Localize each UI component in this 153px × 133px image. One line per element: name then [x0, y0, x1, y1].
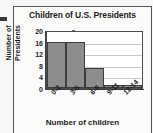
bar-cell	[85, 32, 104, 88]
y-tick-label: 16	[35, 39, 43, 46]
plot-area	[46, 31, 143, 89]
y-tick-label: 8	[39, 62, 43, 69]
x-axis-title: Number of children	[16, 118, 149, 127]
y-axis-title-line2: Presidents	[14, 15, 23, 71]
y-tick-label: 0	[39, 86, 43, 93]
chart-title: Children of U.S. Presidents	[16, 10, 149, 20]
y-tick-label: 4	[39, 74, 43, 81]
bar-0-2	[47, 42, 66, 88]
x-tick-cell: 9-11	[104, 90, 123, 112]
bar-3-5	[66, 42, 85, 88]
x-axis-tick-labels: 0-23-56-89-1112-14	[46, 90, 143, 112]
y-axis-title-line1: Number of	[5, 15, 14, 71]
bar-cell	[66, 32, 85, 88]
figure-container: Children of U.S. Presidents Number of Pr…	[0, 0, 153, 133]
bar-series	[47, 32, 142, 88]
y-tick-label: 20	[35, 28, 43, 35]
bar-cell	[104, 32, 123, 88]
y-axis-tick-labels: 048121620	[30, 31, 43, 89]
y-axis-title: Number of Presidents	[5, 15, 27, 71]
bar-cell	[47, 32, 66, 88]
x-tick-cell: 6-8	[85, 90, 104, 112]
x-tick-cell: 12-14	[124, 90, 143, 112]
x-tick-cell: 0-2	[46, 90, 65, 112]
y-tick-label: 12	[35, 51, 43, 58]
x-tick-cell: 3-5	[65, 90, 84, 112]
